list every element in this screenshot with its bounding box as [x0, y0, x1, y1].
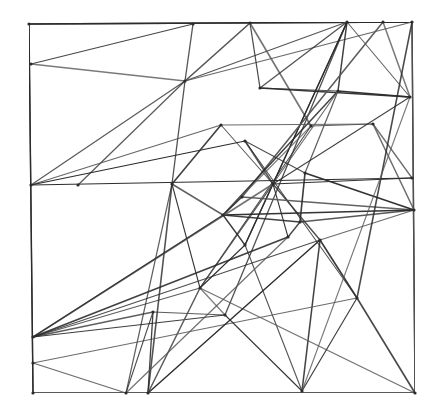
vertex-dot: [31, 391, 34, 394]
vertex-dot: [345, 20, 348, 23]
vertex-dot: [303, 171, 306, 174]
vertex-dot: [413, 391, 416, 394]
vertex-dot: [27, 22, 30, 25]
vertex-dot: [336, 89, 339, 92]
vertex-dot: [371, 122, 374, 125]
vertex-dot: [258, 86, 261, 89]
vertex-dot: [271, 182, 274, 185]
vertex-dot: [191, 22, 194, 25]
vertex-dot: [146, 391, 149, 394]
vertex-dot: [355, 296, 358, 299]
vertex-dot: [243, 243, 246, 246]
vertex-dot: [298, 220, 301, 223]
vertex-dot: [183, 79, 186, 82]
vertex-dot: [286, 235, 289, 238]
vertex-dot: [381, 20, 384, 23]
vertex-dot: [408, 95, 411, 98]
triangulated-mesh-sketch: [0, 0, 446, 411]
vertex-dot: [300, 389, 303, 392]
vertex-dot: [412, 208, 415, 211]
vertex-dot: [243, 139, 246, 142]
vertex-dot: [124, 391, 127, 394]
pencil-line-drawing: [0, 0, 446, 411]
vertex-dot: [31, 335, 34, 338]
vertex-dot: [248, 21, 251, 24]
vertex-dot: [410, 176, 413, 179]
vertex-dot: [31, 361, 34, 364]
vertex-dot: [219, 123, 222, 126]
vertex-dot: [198, 286, 201, 289]
vertex-dot: [170, 182, 173, 185]
vertex-dot: [318, 238, 321, 241]
paper-background: [0, 0, 446, 411]
vertex-dot: [240, 195, 243, 198]
vertex-dot: [223, 313, 226, 316]
vertex-dot: [76, 183, 79, 186]
vertex-dot: [410, 20, 413, 23]
vertex-dot: [151, 310, 154, 313]
vertex-dot: [29, 183, 32, 186]
vertex-dot: [309, 124, 312, 127]
vertex-dot: [221, 213, 224, 216]
vertex-dot: [29, 62, 32, 65]
